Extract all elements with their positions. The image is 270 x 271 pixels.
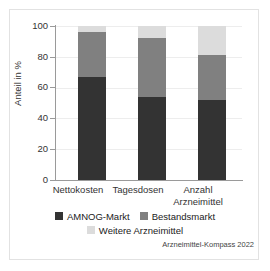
bar-segment-weitere_arzneimittel[interactable]	[78, 26, 106, 32]
legend-label: AMNOG-Markt	[67, 211, 130, 222]
legend-swatch-icon	[87, 226, 95, 234]
y-tick-label-100: 100	[22, 21, 48, 31]
plot-area	[56, 26, 242, 180]
bar-segment-amnog_markt[interactable]	[138, 97, 166, 180]
bar-segment-amnog_markt[interactable]	[198, 100, 226, 180]
bar-anzahl-arzneimittel[interactable]	[198, 26, 226, 180]
legend-item-amnog-markt[interactable]: AMNOG-Markt	[55, 211, 130, 222]
x-tick-label-line: Anzahl	[155, 184, 241, 196]
bar-segment-weitere_arzneimittel[interactable]	[138, 26, 166, 38]
y-tick-label-80: 80	[22, 52, 48, 62]
legend-row-1: AMNOG-Markt Bestandsmarkt	[28, 209, 242, 223]
x-tick-label-line: Arzneimittel	[155, 196, 241, 208]
bar-segment-bestandsmarkt[interactable]	[78, 32, 106, 77]
legend-label: Weitere Arzneimittel	[99, 225, 183, 236]
legend-item-weitere-arzneimittel[interactable]: Weitere Arzneimittel	[87, 225, 183, 236]
bar-nettokosten[interactable]	[78, 26, 106, 180]
y-tick-label-60: 60	[22, 82, 48, 92]
bar-tagesdosen[interactable]	[138, 26, 166, 180]
y-tick-label-20: 20	[22, 144, 48, 154]
x-axis-line	[55, 180, 243, 181]
chart-figure: Anteil in % 100 80 60 40 20 0 Nettokoste…	[0, 0, 270, 271]
legend-swatch-icon	[140, 212, 148, 220]
source-credit: Arzneimittel-Kompass 2022	[162, 240, 254, 249]
legend-item-bestandsmarkt[interactable]: Bestandsmarkt	[140, 211, 215, 222]
chart-legend: AMNOG-Markt Bestandsmarkt Weitere Arznei…	[28, 209, 242, 237]
bar-segment-amnog_markt[interactable]	[78, 77, 106, 180]
legend-row-2: Weitere Arzneimittel	[28, 223, 242, 237]
legend-swatch-icon	[55, 212, 63, 220]
bar-segment-weitere_arzneimittel[interactable]	[198, 26, 226, 55]
y-axis-tick-labels: 100 80 60 40 20 0	[18, 0, 48, 200]
bar-segment-bestandsmarkt[interactable]	[198, 55, 226, 100]
legend-label: Bestandsmarkt	[152, 211, 215, 222]
y-tick-label-40: 40	[22, 113, 48, 123]
bar-segment-bestandsmarkt[interactable]	[138, 38, 166, 97]
x-tick-label-anzahl-arzneimittel: Anzahl Arzneimittel	[155, 184, 241, 207]
